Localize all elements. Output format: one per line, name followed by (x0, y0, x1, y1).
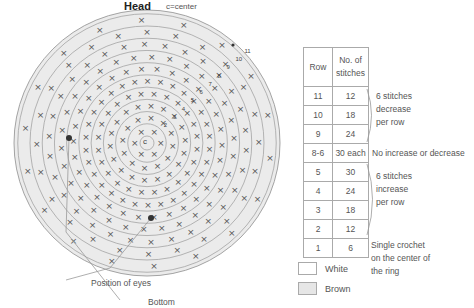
svg-text:×: × (141, 175, 149, 185)
right-eye-marker (148, 215, 154, 221)
svg-text:×: × (113, 57, 121, 67)
decrease-note: 6 stitches decrease per row (376, 90, 412, 129)
svg-text:×: × (212, 109, 220, 119)
svg-text:×: × (71, 91, 79, 101)
svg-text:×: × (33, 139, 41, 149)
svg-text:×: × (227, 115, 235, 125)
svg-text:×: × (96, 25, 104, 35)
svg-text:×: × (119, 135, 127, 145)
svg-text:×: × (89, 234, 97, 244)
svg-text:×: × (157, 77, 165, 87)
svg-text:×: × (107, 229, 115, 239)
svg-text:×: × (88, 42, 96, 52)
svg-text:×: × (198, 169, 206, 179)
svg-text:×: × (181, 47, 189, 57)
svg-text:×: × (135, 212, 143, 222)
svg-text:×: × (169, 81, 177, 91)
svg-text:×: × (200, 234, 208, 244)
svg-text:×: × (108, 188, 116, 198)
svg-text:×: × (151, 127, 159, 137)
center-label: c (143, 137, 147, 146)
svg-text:×: × (240, 193, 248, 203)
svg-text:×: × (205, 199, 213, 209)
start-note: Single crochet on the center of the ring (371, 239, 430, 278)
svg-text:×: × (173, 245, 181, 255)
svg-text:×: × (90, 205, 98, 215)
svg-text:×: × (107, 141, 115, 151)
svg-text:×: × (190, 157, 198, 167)
svg-text:×: × (168, 68, 176, 78)
table-row: 212 (304, 220, 369, 239)
svg-text:×: × (72, 121, 80, 131)
svg-text:×: × (193, 131, 201, 141)
svg-text:×: × (151, 149, 159, 159)
svg-text:×: × (203, 119, 211, 129)
stitch-count: 12 (333, 220, 369, 239)
svg-text:×: × (148, 52, 156, 62)
svg-text:×: × (218, 140, 226, 150)
svg-text:×: × (229, 151, 237, 161)
svg-text:×: × (37, 110, 45, 120)
svg-text:×: × (160, 104, 168, 114)
svg-text:×: × (97, 66, 105, 76)
svg-text:×: × (147, 237, 155, 247)
svg-text:×: × (59, 125, 67, 135)
svg-text:×: × (174, 98, 182, 108)
stitch-count: 24 (333, 182, 369, 201)
svg-text:×: × (85, 119, 93, 129)
svg-text:×: × (90, 107, 98, 117)
svg-text:×: × (129, 158, 137, 168)
svg-text:×: × (247, 71, 255, 81)
svg-text:×: × (125, 184, 133, 194)
svg-text:×: × (180, 88, 188, 98)
svg-text:×: × (180, 148, 188, 158)
svg-text:×: × (180, 20, 188, 30)
svg-text:×: × (108, 256, 116, 266)
svg-text:×: × (106, 201, 114, 211)
svg-text:×: × (77, 106, 85, 116)
svg-text:×: × (266, 153, 274, 163)
svg-text:×: × (67, 178, 75, 188)
svg-text:×: × (85, 93, 93, 103)
svg-text:×: × (98, 180, 106, 190)
svg-text:×: × (166, 54, 174, 64)
svg-text:×: × (251, 109, 259, 119)
left-eye-marker (66, 135, 72, 141)
svg-text:×: × (228, 228, 236, 238)
svg-text:×: × (104, 108, 112, 118)
svg-text:×: × (163, 92, 171, 102)
svg-text:×: × (95, 132, 103, 142)
svg-text:×: × (240, 82, 248, 92)
row-number: 10 (304, 106, 333, 125)
svg-text:×: × (203, 183, 211, 193)
svg-text:×: × (101, 49, 109, 59)
svg-text:×: × (113, 117, 121, 127)
svg-text:×: × (131, 199, 139, 209)
table-row: 1018 (304, 106, 369, 125)
svg-text:×: × (158, 223, 166, 233)
legend-item-brown: Brown (298, 282, 351, 295)
svg-text:×: × (223, 216, 231, 226)
svg-text:×: × (66, 217, 74, 227)
table-row: 530 (304, 163, 369, 182)
svg-text:×: × (193, 144, 201, 154)
diagram-title: Head (124, 0, 151, 12)
svg-text:×: × (124, 123, 132, 133)
svg-text:×: × (231, 185, 239, 195)
row-number: 1 (304, 239, 333, 258)
table-row: 1112 (304, 87, 369, 106)
svg-text:×: × (41, 205, 49, 215)
svg-text:×: × (192, 194, 200, 204)
svg-text:×: × (216, 155, 224, 165)
svg-text:×: × (125, 92, 133, 102)
svg-text:×: × (178, 122, 186, 132)
svg-text:×: × (199, 42, 207, 52)
stitch-count: 18 (333, 106, 369, 125)
svg-text:×: × (22, 123, 30, 133)
svg-text:×: × (167, 128, 175, 138)
svg-text:×: × (110, 154, 118, 164)
svg-text:×: × (90, 169, 98, 179)
svg-text:×: × (147, 101, 155, 111)
svg-text:×: × (57, 91, 65, 101)
legend-item-white: White (298, 262, 348, 275)
